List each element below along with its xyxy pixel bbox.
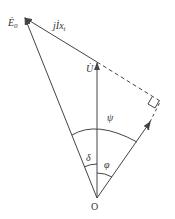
delta-arc xyxy=(84,164,97,167)
phasor-diagram: Ė0 jİxt U̇ ψ İ δ φ O xyxy=(0,0,175,219)
phi-arc xyxy=(97,173,112,177)
dashed-extension xyxy=(97,62,160,101)
phi-label: φ xyxy=(104,159,110,170)
e0-label: Ė0 xyxy=(7,17,18,30)
jixt-label: jİxt xyxy=(51,20,67,33)
psi-arc xyxy=(72,129,137,142)
u-label: U̇ xyxy=(86,63,94,74)
i-label: İ xyxy=(146,121,151,132)
i-dashed-extension xyxy=(150,102,160,122)
e0-phasor xyxy=(25,18,97,198)
psi-label: ψ xyxy=(107,112,114,123)
delta-label: δ xyxy=(86,152,91,163)
right-angle-marker xyxy=(148,97,159,108)
origin-label: O xyxy=(91,201,98,212)
